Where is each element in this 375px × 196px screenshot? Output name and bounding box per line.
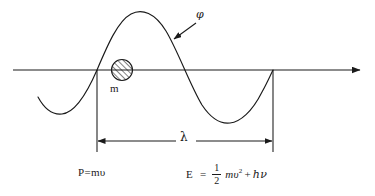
momentum-equation-label: P=mυ <box>78 167 106 178</box>
wavelength-label: λ <box>180 131 188 143</box>
one-half-fraction: 1 2 <box>212 163 221 186</box>
kinetic-term-base: mυ <box>225 168 238 180</box>
plus-sign: + <box>244 169 250 180</box>
mass-label: m <box>110 83 119 94</box>
phi-leader-line <box>174 23 196 39</box>
wave-function-label: φ <box>196 9 204 20</box>
kinetic-term-exponent: 2 <box>239 167 243 175</box>
energy-equation: E = 1 2 mυ2 + hν <box>186 163 267 186</box>
energy-equals-sign: = <box>200 169 206 180</box>
photon-energy-term: hν <box>253 169 267 180</box>
figure-canvas: φ m λ P=mυ E = 1 2 mυ2 + hν <box>0 0 375 196</box>
particle-circle <box>112 60 133 81</box>
fraction-denominator: 2 <box>213 175 220 186</box>
energy-symbol: E <box>186 169 193 180</box>
matter-wave-curve <box>38 12 273 124</box>
kinetic-energy-term: mυ2 <box>225 169 242 180</box>
fraction-numerator: 1 <box>213 163 220 174</box>
